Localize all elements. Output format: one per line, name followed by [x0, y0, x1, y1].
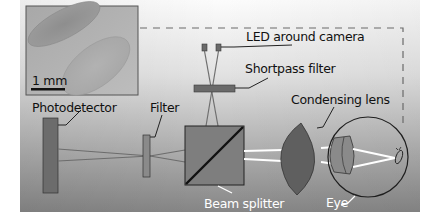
optical-setup-diagram: 1 mm: [0, 0, 440, 222]
led-right: [216, 44, 221, 51]
label-photodetector: Photodetector: [32, 100, 118, 115]
scale-bar: [31, 88, 65, 91]
filter: [143, 135, 150, 177]
label-led: LED around camera: [246, 29, 364, 44]
beam-splitter: [185, 126, 244, 185]
label-filter: Filter: [150, 100, 180, 115]
label-beam-splitter: Beam splitter: [204, 196, 285, 211]
photodetector: [43, 118, 58, 193]
label-shortpass-filter: Shortpass filter: [245, 61, 337, 76]
inset-micrograph: 1 mm: [22, 0, 140, 106]
scale-bar-label: 1 mm: [32, 73, 67, 88]
shortpass-filter: [194, 85, 235, 92]
label-condensing-lens: Condensing lens: [291, 92, 390, 107]
label-eye: Eye: [326, 195, 349, 210]
led-left: [202, 44, 207, 51]
